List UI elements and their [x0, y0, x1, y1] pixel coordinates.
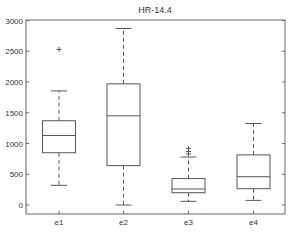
y-tick-label: 500	[10, 170, 24, 179]
iqr-box	[43, 121, 76, 153]
x-tick-label: e2	[119, 218, 128, 227]
x-tick-label: e4	[249, 218, 258, 227]
iqr-box	[107, 84, 140, 166]
y-tick-label: 2000	[5, 78, 23, 87]
y-tick-label: 1000	[5, 140, 23, 149]
y-tick-label: 1500	[5, 109, 23, 118]
x-tick-label: e3	[184, 218, 193, 227]
boxplot-chart: HR-14.4 050010001500200025003000 e1e2e3e…	[0, 0, 292, 234]
iqr-box	[172, 179, 205, 193]
y-tick-label: 3000	[5, 17, 23, 26]
iqr-box	[237, 155, 270, 189]
chart-title: HR-14.4	[138, 5, 172, 15]
x-tick-label: e1	[55, 218, 64, 227]
y-tick-label: 0	[19, 201, 24, 210]
y-tick-label: 2500	[5, 47, 23, 56]
